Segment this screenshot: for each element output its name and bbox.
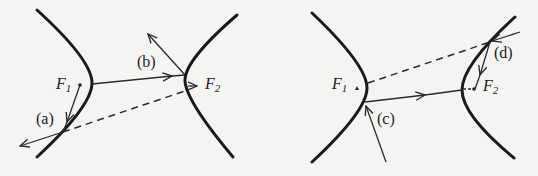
focus-f2-label: F2 — [482, 77, 499, 96]
focus-f1-marker — [355, 86, 359, 90]
focus-f1-label: F1 — [55, 75, 71, 94]
focus-f1-label: F1 — [331, 75, 347, 94]
diagram-right: F1 F2 (c) (d) — [312, 13, 520, 162]
label-c: (c) — [377, 110, 395, 128]
label-b: (b) — [137, 53, 156, 71]
ray-b-incident — [92, 76, 172, 84]
label-a: (a) — [36, 110, 54, 128]
diagram-left: F1 F2 (a) (b) — [20, 10, 237, 157]
dashed-line-a — [63, 91, 185, 132]
hyperbola-reflection-figure: F1 F2 (a) (b) F1 F2 — [0, 0, 538, 176]
label-d: (d) — [494, 44, 513, 62]
ray-c-reflected — [365, 95, 425, 102]
focus-f2-label: F2 — [204, 75, 221, 94]
